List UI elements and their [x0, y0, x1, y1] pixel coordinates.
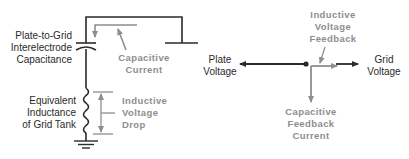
- voltage-drop-bracket: [93, 92, 115, 134]
- inductive-feedback-label: Inductive Voltage Feedback: [300, 9, 366, 45]
- capacitance-label: Plate-to-Grid Interelectrode Capacitance: [0, 30, 72, 66]
- inductance-label: Equivalent Inductance of Grid Tank: [0, 95, 76, 131]
- origin-dot-icon: [303, 61, 308, 66]
- capacitive-feedback-label: Capacitive Feedback Current: [279, 106, 343, 142]
- capacitive-current-label: Capacitive Current: [112, 52, 176, 76]
- phasor-diagram: [240, 47, 358, 102]
- voltage-drop-label: Inductive Voltage Drop: [122, 95, 167, 131]
- ground-icon: [74, 141, 98, 148]
- inductor-coil-icon: [84, 88, 89, 133]
- grid-voltage-label: Grid Voltage: [361, 54, 407, 78]
- plate-voltage-label: Plate Voltage: [200, 54, 240, 78]
- capacitive-current-arrow: [95, 25, 137, 50]
- capacitor-icon: [76, 43, 96, 50]
